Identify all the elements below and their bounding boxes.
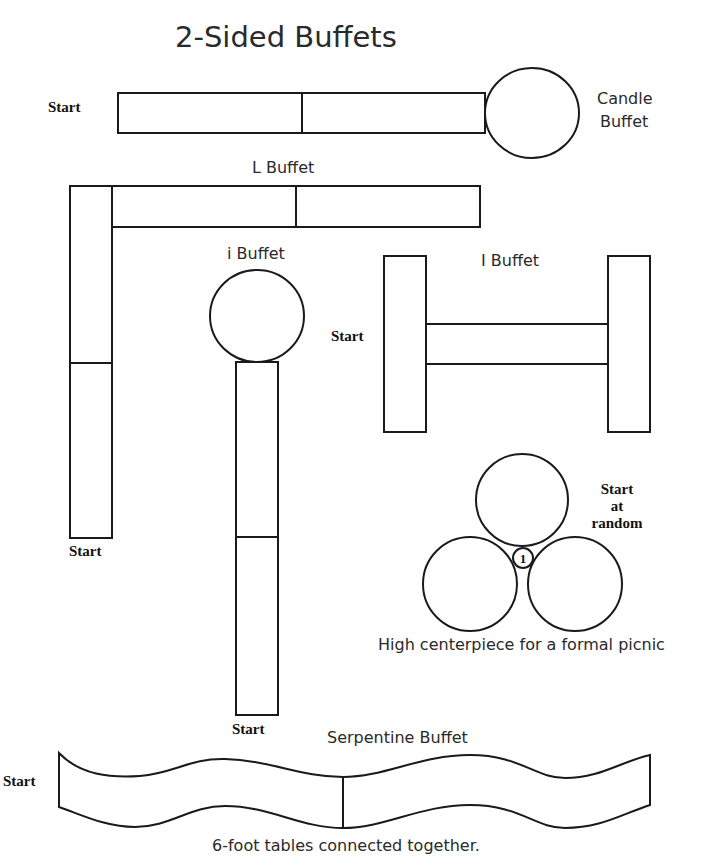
candle-buffet-start-label: Start (48, 99, 81, 115)
i-buffet-label: i Buffet (227, 244, 285, 263)
capital-i-buffet-start-label: Start (331, 328, 364, 344)
serpentine-table (59, 753, 650, 828)
round-table-bottom-right (528, 537, 622, 631)
serpentine-buffet-label: Serpentine Buffet (327, 728, 468, 747)
round-table-top (476, 454, 568, 546)
round-tables-group: 1 Start at random High centerpiece for a… (378, 454, 665, 654)
capital-i-middle-table (426, 324, 608, 364)
i-buffet: i Buffet Start (210, 244, 304, 737)
candle-round-table (485, 68, 579, 158)
centerpiece-number: 1 (520, 551, 527, 566)
capital-i-right-table (608, 256, 650, 432)
round-tables-caption: High centerpiece for a formal picnic (378, 635, 665, 654)
serpentine-buffet-start-label: Start (3, 773, 36, 789)
page-title: 2-Sided Buffets (175, 20, 397, 54)
candle-buffet: Start Candle Buffet (48, 68, 653, 158)
l-buffet-start-label: Start (69, 543, 102, 559)
candle-buffet-label-line1: Candle (597, 89, 653, 108)
serpentine-caption: 6-foot tables connected together. (212, 836, 480, 855)
l-buffet-label: L Buffet (252, 158, 314, 177)
i-buffet-round-table (210, 270, 304, 362)
round-table-bottom-left (423, 537, 517, 631)
round-tables-start-line2: at (611, 498, 624, 514)
i-buffet-start-label: Start (232, 721, 265, 737)
capital-i-buffet-label: I Buffet (481, 251, 539, 270)
capital-i-left-table (384, 256, 426, 432)
candle-buffet-label-line2: Buffet (600, 112, 648, 131)
capital-i-buffet: I Buffet Start (331, 251, 650, 432)
round-tables-start-line3: random (592, 515, 643, 531)
serpentine-buffet: Serpentine Buffet Start 6-foot tables co… (3, 728, 650, 855)
i-buffet-table (236, 362, 278, 715)
buffet-diagram: 2-Sided Buffets Start Candle Buffet L Bu… (0, 0, 704, 865)
round-tables-start-line1: Start (601, 481, 634, 497)
